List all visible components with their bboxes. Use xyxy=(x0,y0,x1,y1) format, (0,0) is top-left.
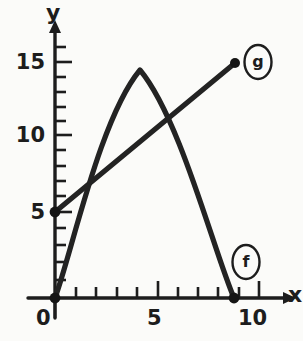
curve-label-f: f xyxy=(238,254,254,270)
x-tick-label-10: 10 xyxy=(238,308,267,329)
graph-figure: 15 10 5 0 5 10 y x g f xyxy=(0,0,303,341)
curve-f-parabola xyxy=(55,70,234,298)
point-markers xyxy=(50,58,240,303)
x-axis-label: x xyxy=(288,284,302,306)
x-tick-label-0: 0 xyxy=(36,308,51,329)
marker-f-root-origin xyxy=(50,293,61,304)
marker-g-y-intercept xyxy=(50,207,61,218)
marker-f-root-right xyxy=(229,293,240,304)
y-tick-label-15: 15 xyxy=(16,52,45,73)
curve-label-g: g xyxy=(250,54,266,70)
y-tick-label-10: 10 xyxy=(16,125,45,146)
curve-g-line xyxy=(55,63,235,212)
y-tick-label-5: 5 xyxy=(30,202,45,223)
marker-g-endpoint xyxy=(230,58,240,68)
x-tick-label-5: 5 xyxy=(147,308,162,329)
y-axis-label: y xyxy=(46,2,60,24)
